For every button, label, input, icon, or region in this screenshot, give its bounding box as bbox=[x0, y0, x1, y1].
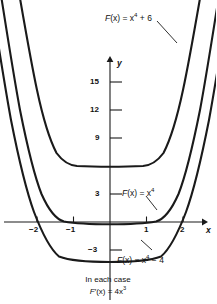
leader-line-upper bbox=[157, 21, 177, 43]
x-tick-label--2: −2 bbox=[29, 226, 38, 234]
y-tick-label-15: 15 bbox=[90, 78, 99, 86]
y-tick-label-9: 9 bbox=[95, 134, 99, 142]
leader-line-middle bbox=[146, 196, 157, 210]
curve-label-upper-suffix: + 6 bbox=[137, 13, 151, 23]
y-axis-label: y bbox=[117, 59, 122, 68]
y-tick-label-12: 12 bbox=[90, 106, 99, 114]
x-tick-label-2: 2 bbox=[180, 226, 184, 234]
curve-label-upper-paren: (x) bbox=[110, 13, 120, 23]
caption-eq: = 4x bbox=[105, 287, 123, 296]
leader-line-lower bbox=[141, 240, 152, 250]
x-axis-label: x bbox=[206, 226, 211, 235]
curve-label-middle-eq: = x bbox=[137, 188, 151, 198]
curve-label-lower-paren: (x) bbox=[122, 255, 132, 265]
curve-label-middle-paren: (x) bbox=[127, 188, 137, 198]
curve-x4-minus-4 bbox=[0, 0, 216, 262]
curve-label-middle-exp: 4 bbox=[151, 186, 154, 193]
plot-canvas bbox=[0, 0, 216, 304]
curve-label-x4: F(x) = x4 bbox=[122, 189, 154, 198]
y-tick-label-3: 3 bbox=[95, 190, 99, 198]
caption-line-2: F′(x) = 4x3 bbox=[0, 288, 216, 296]
curve-label-upper-eq: = x bbox=[120, 13, 134, 23]
curve-label-lower-eq: = x bbox=[132, 255, 146, 265]
x-tick-label-1: 1 bbox=[144, 226, 148, 234]
y-axis-arrow bbox=[107, 56, 114, 62]
curve-label-x4-minus-4: F(x) = x4 − 4 bbox=[117, 256, 164, 265]
axes-group bbox=[4, 56, 208, 300]
figure-container: −2 −1 1 2 15 12 9 3 −3 y x F(x) = x4 + 6… bbox=[0, 0, 216, 304]
caption-exp: 3 bbox=[123, 285, 126, 291]
curve-label-lower-suffix: − 4 bbox=[149, 255, 163, 265]
curve-label-x4-plus-6: F(x) = x4 + 6 bbox=[105, 14, 152, 23]
y-tick-label--3: −3 bbox=[88, 246, 97, 254]
curve-x4 bbox=[1, 0, 217, 224]
caption-line-1: In each case bbox=[0, 276, 216, 284]
x-tick-label--1: −1 bbox=[66, 226, 75, 234]
